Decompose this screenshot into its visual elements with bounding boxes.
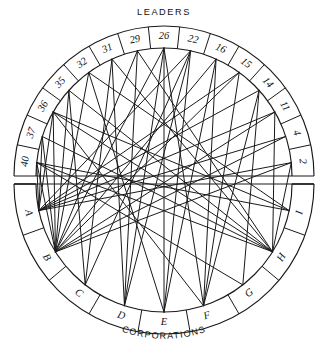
chord-11-H [273, 112, 275, 252]
sector-label-37[interactable]: 37 [24, 125, 38, 140]
sector-label-35[interactable]: 35 [52, 75, 68, 91]
sector-label-36[interactable]: 36 [35, 98, 51, 114]
sector-label-2[interactable]: 2 [298, 158, 310, 165]
sector-label-32[interactable]: 32 [73, 55, 89, 71]
sector-label-11[interactable]: 11 [278, 99, 292, 113]
sector-label-14[interactable]: 14 [261, 75, 277, 91]
sector-tick [262, 266, 279, 280]
sector-tick [228, 46, 239, 65]
sector-label-I[interactable]: I [293, 209, 305, 216]
sector-label-B[interactable]: B [41, 251, 54, 263]
sector-label-H[interactable]: H [274, 250, 289, 264]
sector-tick [49, 266, 66, 280]
sector-label-16[interactable]: 16 [214, 41, 229, 56]
sector-label-D[interactable]: D [115, 308, 127, 321]
sector-tick [64, 65, 79, 81]
sector-tick [23, 228, 44, 236]
sector-label-A[interactable]: A [23, 207, 35, 217]
chord-31-C [85, 59, 112, 285]
sociogram-figure: LEADERS CORPORATIONS 4037363532312926221… [0, 0, 328, 357]
sector-label-31[interactable]: 31 [99, 41, 114, 56]
sector-label-4[interactable]: 4 [291, 129, 303, 138]
sector-tick [268, 88, 286, 101]
sector-tick [177, 27, 179, 49]
top-title-leaders: LEADERS [137, 7, 191, 17]
sector-label-E[interactable]: E [160, 316, 168, 327]
sector-tick [27, 115, 47, 124]
sector-label-22[interactable]: 22 [187, 32, 200, 45]
sector-tick [284, 228, 305, 236]
sector-tick [289, 145, 311, 150]
sector-label-15[interactable]: 15 [239, 55, 254, 70]
sector-tick [204, 33, 211, 54]
sector-tick [250, 65, 265, 81]
chord-lines [37, 48, 292, 312]
sector-tick [118, 33, 125, 54]
sector-label-29[interactable]: 29 [129, 32, 142, 45]
chord-22-E [164, 51, 191, 312]
chord-32-B [55, 72, 88, 251]
sociogram-canvas: LEADERS CORPORATIONS 4037363532312926221… [0, 0, 328, 357]
chord-29-H [137, 51, 272, 252]
sector-label-26[interactable]: 26 [159, 30, 170, 41]
sector-tick [43, 88, 61, 101]
chord-22-A [39, 51, 191, 211]
sector-label-40[interactable]: 40 [19, 155, 31, 167]
sector-tick [89, 46, 100, 65]
sector-tick [281, 115, 301, 124]
sector-tick [17, 145, 39, 150]
sector-label-F[interactable]: F [201, 309, 212, 322]
sector-tick [89, 295, 100, 314]
sector-tick [228, 295, 239, 314]
sector-label-G[interactable]: G [243, 286, 256, 300]
sector-label-C[interactable]: C [73, 286, 86, 300]
chord-26-F [164, 48, 204, 306]
sector-tick [148, 27, 150, 49]
